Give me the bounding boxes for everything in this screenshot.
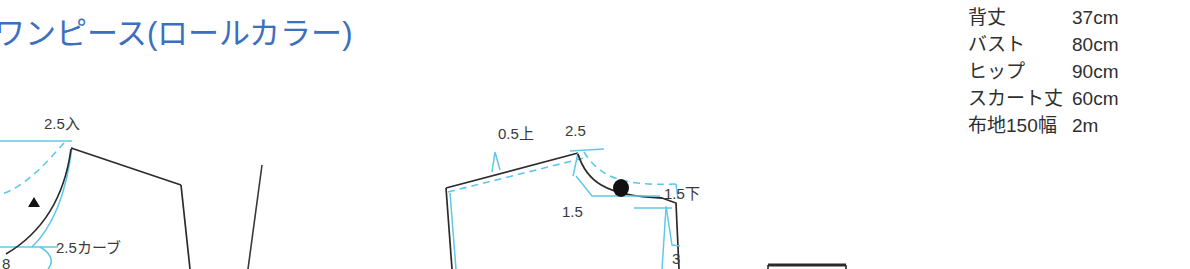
measurement-table: 背丈 37cm バスト 80cm ヒップ 90cm スカート丈 60cm 布地1… bbox=[968, 4, 1183, 139]
right-outline-shoulder bbox=[446, 153, 578, 188]
spec-value: 37cm bbox=[1072, 4, 1118, 31]
right-guide-shoulder-dashed bbox=[448, 158, 584, 192]
left-guide-neckline-solid bbox=[32, 147, 72, 247]
annotation-left-eight: 8 bbox=[2, 255, 10, 269]
right-notch-half-up bbox=[492, 152, 500, 172]
table-row: スカート丈 60cm bbox=[968, 85, 1183, 112]
page-title: ワンピース(ロールカラー) bbox=[0, 8, 353, 53]
left-triangle-marker bbox=[28, 197, 40, 207]
left-guide-hook bbox=[40, 247, 51, 269]
right-guide-top-cap bbox=[570, 149, 604, 151]
right-outline-left-side bbox=[446, 188, 452, 269]
spec-label: バスト bbox=[968, 31, 1072, 58]
annotation-right-one-five: 1.5 bbox=[562, 203, 583, 220]
right-guide-shoulder-tip bbox=[573, 153, 578, 176]
annotation-left-curve: 2.5カーブ bbox=[56, 236, 121, 257]
left-outline-shoulder bbox=[71, 148, 181, 185]
pattern-sheet: ワンピース(ロールカラー) bbox=[0, 0, 1190, 269]
left-outline-side bbox=[181, 185, 190, 269]
annotation-right-one-five-down: 1.5下 bbox=[664, 182, 700, 203]
right-guide-dart-side bbox=[662, 208, 666, 269]
spec-value: 80cm bbox=[1072, 31, 1118, 58]
annotation-right-three: 3 bbox=[672, 250, 680, 267]
right-outline-armhole bbox=[578, 154, 662, 198]
right-guide-dart-wedge bbox=[666, 206, 680, 246]
right-dot-marker bbox=[613, 179, 629, 197]
spec-label: 布地150幅 bbox=[968, 112, 1072, 139]
right-guide-armhole-dashed bbox=[584, 152, 676, 184]
table-row: バスト 80cm bbox=[968, 31, 1183, 58]
annotation-right-two-five: 2.5 bbox=[565, 122, 586, 139]
right-guide-left-side bbox=[450, 193, 456, 269]
annotation-right-up: 0.5上 bbox=[498, 122, 534, 143]
spec-label: スカート丈 bbox=[968, 85, 1072, 112]
spec-value: 60cm bbox=[1072, 85, 1118, 112]
spec-value: 2m bbox=[1072, 112, 1098, 139]
center-fold-line bbox=[248, 165, 262, 269]
left-guide-neckline-dashed bbox=[0, 143, 64, 198]
table-row: 布地150幅 2m bbox=[968, 112, 1183, 139]
spec-label: 背丈 bbox=[968, 4, 1072, 31]
table-row: 背丈 37cm bbox=[968, 4, 1183, 31]
spec-label: ヒップ bbox=[968, 58, 1072, 85]
spec-value: 90cm bbox=[1072, 58, 1118, 85]
table-row: ヒップ 90cm bbox=[968, 58, 1183, 85]
right-guide-armhole-inner bbox=[576, 176, 660, 196]
annotation-left-in: 2.5入 bbox=[44, 112, 80, 133]
